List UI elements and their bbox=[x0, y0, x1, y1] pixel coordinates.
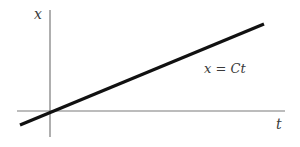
equation-label: x = Ct bbox=[204, 61, 246, 76]
y-axis-label: x bbox=[34, 6, 42, 22]
x-axis-label: t bbox=[276, 116, 282, 132]
graph-canvas: x t x = Ct bbox=[0, 0, 300, 147]
